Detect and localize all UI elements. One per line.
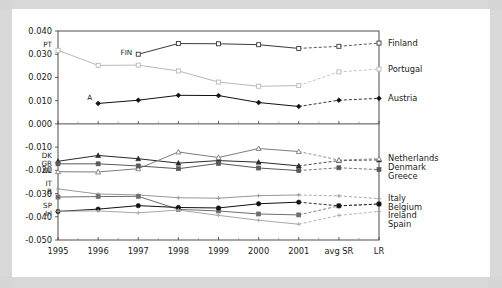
y-axis-tick-label: 0.020: [28, 72, 52, 82]
series-belgium: B: [47, 187, 381, 217]
data-point-marker: [256, 146, 261, 151]
series-line-segment: [178, 152, 218, 158]
series-line-segment: [299, 161, 339, 166]
series-right-label-austria: Austria: [388, 93, 417, 103]
series-portugal: PT: [43, 40, 381, 88]
series-line-segment: [259, 162, 299, 166]
series-line-segment: [98, 169, 138, 172]
series-line-segment: [219, 44, 259, 45]
series-inline-label-portugal: PT: [43, 40, 52, 49]
series-line-segment: [219, 149, 259, 158]
data-point-marker: [136, 164, 140, 168]
y-axis-tick-label: 0.030: [28, 49, 52, 59]
x-axis-tick-label: 1999: [208, 246, 229, 256]
data-point-marker: [296, 149, 301, 154]
data-point-marker: [377, 96, 382, 101]
series-line-segment: [339, 98, 379, 100]
series-line-segment: [58, 155, 98, 161]
series-right-label-spain: Spain: [388, 219, 411, 229]
series-line-segment: [259, 168, 299, 171]
series-line-segment: [178, 163, 218, 168]
series-inline-label-finland: FIN: [121, 48, 133, 57]
data-point-marker: [216, 206, 220, 210]
data-point-marker: [136, 98, 141, 103]
series-line-segment: [219, 211, 259, 214]
series-line-segment: [299, 152, 339, 161]
x-axis-tick-label: 1996: [88, 246, 109, 256]
line-chart: 0.0400.0300.0200.0100.000-0.010-0.020-0.…: [12, 9, 490, 277]
series-line-segment: [259, 45, 299, 49]
series-line-segment: [299, 195, 339, 196]
data-point-marker: [377, 168, 381, 172]
series-line-segment: [259, 220, 299, 224]
series-line-segment: [299, 206, 339, 215]
x-axis-tick-label: avg SR: [324, 246, 353, 256]
data-point-marker: [176, 93, 181, 98]
series-line-segment: [98, 100, 138, 103]
series-line-segment: [178, 161, 218, 164]
x-axis-tick-label: 1998: [168, 246, 189, 256]
series-line-segment: [138, 95, 178, 100]
series-line-segment: [259, 103, 299, 107]
series-line-segment: [219, 163, 259, 168]
x-axis-tick-label: LR: [374, 246, 385, 256]
series-line-segment: [219, 215, 259, 220]
screenshot-root: 0.0400.0300.0200.0100.000-0.010-0.020-0.…: [0, 0, 502, 288]
series-line-segment: [299, 168, 339, 171]
data-point-marker: [297, 46, 301, 50]
y-axis-tick-label: 0.000: [28, 119, 52, 129]
y-axis-tick-label: -0.050: [25, 235, 52, 245]
series-finland: FIN: [121, 41, 381, 57]
series-inline-label-spain: SP: [43, 201, 53, 210]
series-line-segment: [299, 46, 339, 48]
data-point-marker: [337, 166, 341, 170]
series-line-segment: [98, 164, 138, 166]
series-inline-label-greece: GR: [41, 159, 52, 168]
data-point-marker: [297, 213, 301, 217]
data-point-marker: [377, 156, 382, 161]
series-line-segment: [339, 43, 379, 46]
series-line-segment: [299, 100, 339, 106]
data-point-marker: [56, 162, 60, 166]
figure-card: 0.0400.0300.0200.0100.000-0.010-0.020-0.…: [12, 9, 490, 277]
series-line-segment: [138, 159, 178, 163]
series-line-segment: [219, 161, 259, 163]
data-point-marker: [56, 195, 60, 199]
series-line-segment: [58, 189, 98, 194]
data-point-marker: [176, 69, 180, 73]
data-point-marker: [217, 161, 221, 165]
series-line-segment: [219, 96, 259, 103]
series-right-label-portugal: Portugal: [388, 64, 422, 74]
data-point-marker: [136, 194, 140, 198]
series-line-segment: [98, 155, 138, 158]
data-point-marker: [336, 158, 341, 163]
data-point-marker: [257, 43, 261, 47]
data-point-marker: [377, 67, 381, 71]
series-line-segment: [138, 195, 178, 198]
series-line-segment: [259, 202, 299, 204]
data-point-marker: [136, 63, 140, 67]
data-point-marker: [216, 93, 221, 98]
data-point-marker: [257, 212, 261, 216]
series-austria: A: [87, 93, 381, 109]
series-line-segment: [339, 168, 379, 170]
series-line-segment: [98, 206, 138, 209]
data-point-marker: [56, 169, 61, 174]
data-point-marker: [217, 80, 221, 84]
series-line-segment: [259, 149, 299, 152]
data-point-marker: [296, 104, 301, 109]
data-point-marker: [257, 166, 261, 170]
data-point-marker: [176, 167, 180, 171]
y-axis-tick-label: 0.010: [28, 96, 52, 106]
data-point-marker: [297, 169, 301, 173]
series-denmark: DK: [42, 151, 382, 168]
data-point-marker: [96, 63, 100, 67]
data-point-marker: [217, 42, 221, 46]
upper-panel: PTPortugalFINFinlandAAustria: [43, 38, 422, 109]
series-line-segment: [339, 196, 379, 199]
data-point-marker: [96, 169, 101, 174]
data-point-marker: [96, 195, 100, 199]
data-point-marker: [257, 84, 261, 88]
series-line-segment: [299, 202, 339, 206]
series-right-label-finland: Finland: [388, 38, 418, 48]
